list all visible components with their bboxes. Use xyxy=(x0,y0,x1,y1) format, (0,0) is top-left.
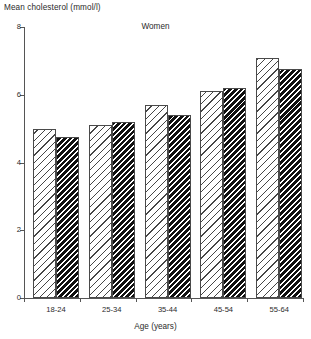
plot-area: 02468 18-2425-3435-4445-5455-64 xyxy=(24,27,303,298)
y-tick-label: 6 xyxy=(17,90,21,99)
bar xyxy=(89,125,112,298)
bar xyxy=(56,137,79,298)
x-tick-mark xyxy=(80,298,81,302)
x-tick-mark xyxy=(303,298,304,302)
chart-figure: Mean cholesterol (mmol/l) Women 02468 18… xyxy=(0,0,311,339)
y-tick-label: 0 xyxy=(17,293,21,302)
bar xyxy=(279,69,302,298)
y-axis-label: Mean cholesterol (mmol/l) xyxy=(4,3,101,12)
x-tick-label: 35-44 xyxy=(158,305,177,314)
x-tick-mark xyxy=(247,298,248,302)
bar xyxy=(145,105,168,298)
x-tick-mark xyxy=(191,298,192,302)
y-tick-label: 8 xyxy=(17,22,21,31)
x-tick-label: 45-54 xyxy=(214,305,233,314)
x-axis-line xyxy=(24,298,303,299)
bar xyxy=(223,88,246,298)
x-tick-label: 25-34 xyxy=(102,305,121,314)
bar xyxy=(33,129,56,298)
x-tick-mark xyxy=(24,298,25,302)
x-tick-mark xyxy=(136,298,137,302)
x-tick-label: 18-24 xyxy=(46,305,65,314)
bar xyxy=(168,115,191,298)
y-tick-label: 2 xyxy=(17,225,21,234)
x-axis-label: Age (years) xyxy=(0,322,311,331)
bar xyxy=(200,91,223,298)
bar xyxy=(256,58,279,299)
y-tick-label: 4 xyxy=(17,158,21,167)
bar xyxy=(112,122,135,298)
y-axis-line xyxy=(24,27,25,298)
x-tick-label: 55-64 xyxy=(269,305,288,314)
